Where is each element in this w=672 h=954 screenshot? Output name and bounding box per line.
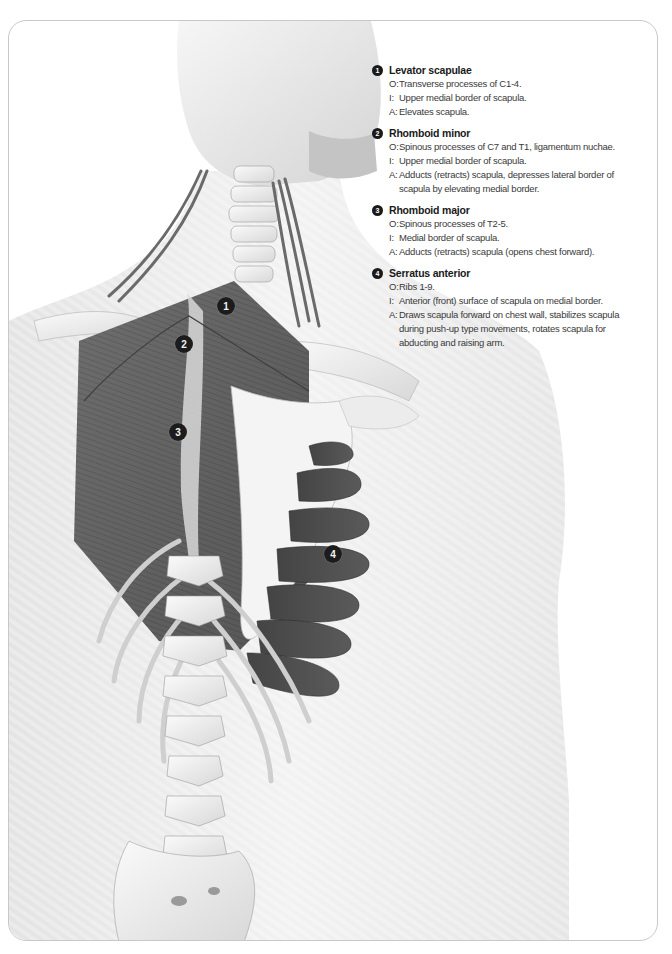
- number-badge: 2: [372, 128, 383, 139]
- insertion-line: I:Upper medial border of scapula.: [372, 154, 652, 168]
- marker-4: 4: [324, 545, 342, 563]
- action-line: A:Elevates scapula.: [372, 105, 652, 119]
- action-line: A:Adducts (retracts) scapula, depresses …: [372, 168, 622, 196]
- action-line: A:Draws scapula forward on chest wall, s…: [372, 308, 622, 350]
- entry-title: Rhomboid minor: [389, 127, 470, 139]
- origin-line: O:Spinous processes of C7 and T1, ligame…: [372, 140, 652, 154]
- number-badge: 3: [372, 205, 383, 216]
- entry-title: Serratus anterior: [389, 267, 470, 279]
- marker-2: 2: [175, 335, 193, 353]
- marker-3: 3: [169, 423, 187, 441]
- number-badge: 4: [372, 268, 383, 279]
- legend-entry-rhomboid-major: 3 Rhomboid major O:Spinous processes of …: [372, 203, 652, 259]
- insertion-line: I:Anterior (front) surface of scapula on…: [372, 294, 652, 308]
- action-line: A:Adducts (retracts) scapula (opens ches…: [372, 245, 652, 259]
- marker-1: 1: [217, 297, 235, 315]
- origin-line: O:Ribs 1-9.: [372, 280, 652, 294]
- legend-entry-serratus-anterior: 4 Serratus anterior O:Ribs 1-9. I:Anteri…: [372, 266, 652, 350]
- origin-line: O:Spinous processes of T2-5.: [372, 217, 652, 231]
- insertion-line: I:Upper medial border of scapula.: [372, 91, 652, 105]
- muscle-legend: 1 Levator scapulae O:Transverse processe…: [372, 63, 652, 357]
- entry-title: Rhomboid major: [389, 204, 470, 216]
- insertion-line: I:Medial border of scapula.: [372, 231, 652, 245]
- origin-line: O:Transverse processes of C1-4.: [372, 77, 652, 91]
- entry-title: Levator scapulae: [389, 64, 472, 76]
- legend-entry-levator-scapulae: 1 Levator scapulae O:Transverse processe…: [372, 63, 652, 119]
- number-badge: 1: [372, 65, 383, 76]
- legend-entry-rhomboid-minor: 2 Rhomboid minor O:Spinous processes of …: [372, 126, 652, 196]
